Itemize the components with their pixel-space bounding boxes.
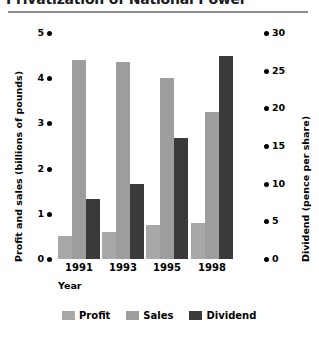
legend-swatch-sales xyxy=(126,311,139,320)
bar-profit-1995 xyxy=(146,225,160,259)
x-axis-tick-1998: 1998 xyxy=(187,262,237,273)
bar-profit-1998 xyxy=(191,223,205,259)
chart-legend: ProfitSalesDividend xyxy=(62,310,272,321)
bar-groups xyxy=(0,0,319,259)
bar-chart: 012345 051015202530 Profit and sales (bi… xyxy=(0,0,319,341)
bar-dividend-1998 xyxy=(219,56,233,259)
legend-swatch-profit xyxy=(62,311,75,320)
bar-dividend-1995 xyxy=(174,138,188,259)
legend-swatch-dividend xyxy=(189,311,202,320)
bar-profit-1993 xyxy=(102,232,116,259)
legend-label-dividend: Dividend xyxy=(206,310,256,321)
bar-dividend-1993 xyxy=(130,184,144,259)
legend-item-sales[interactable]: Sales xyxy=(126,310,173,321)
bar-sales-1991 xyxy=(72,60,86,259)
x-axis-tick-1995: 1995 xyxy=(142,262,192,273)
legend-item-dividend[interactable]: Dividend xyxy=(189,310,256,321)
legend-label-profit: Profit xyxy=(79,310,110,321)
x-axis-tick-1993: 1993 xyxy=(98,262,148,273)
legend-label-sales: Sales xyxy=(143,310,173,321)
x-axis-label: Year xyxy=(58,280,82,291)
bar-sales-1998 xyxy=(205,112,219,259)
bar-dividend-1991 xyxy=(86,199,100,259)
bar-sales-1995 xyxy=(160,78,174,259)
bar-sales-1993 xyxy=(116,62,130,259)
legend-item-profit[interactable]: Profit xyxy=(62,310,110,321)
bar-profit-1991 xyxy=(58,236,72,259)
x-axis-tick-1991: 1991 xyxy=(54,262,104,273)
